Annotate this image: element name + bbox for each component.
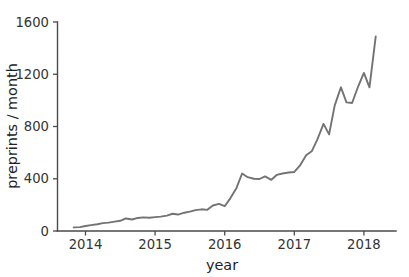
plot-area [74,36,376,227]
figure-container: 040080012001600 20142015201620172018 yea… [0,0,409,277]
y-tick-label: 1600 [15,15,49,30]
x-tick-label: 2014 [69,237,103,252]
x-tick-label: 2016 [208,237,242,252]
y-axis-title: preprints / month [4,63,20,189]
x-tick-label: 2018 [347,237,381,252]
y-tick-label: 0 [41,224,49,239]
series-line-preprints-per-month [74,36,376,227]
x-axis-title: year [206,257,238,273]
y-tick-label: 1200 [15,67,49,82]
axes-group: 040080012001600 20142015201620172018 [15,15,396,252]
preprints-per-month-line-chart: 040080012001600 20142015201620172018 yea… [0,0,409,277]
x-tick-label: 2017 [278,237,312,252]
x-tick-label: 2015 [138,237,172,252]
y-axis-ticks: 040080012001600 [15,15,57,239]
y-tick-label: 800 [24,119,49,134]
x-axis-ticks: 20142015201620172018 [69,231,381,252]
y-tick-label: 400 [24,171,49,186]
